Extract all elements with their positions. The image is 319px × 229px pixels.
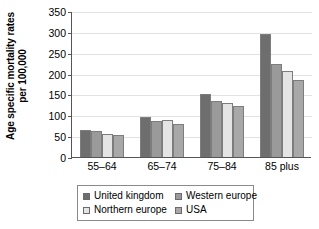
grouped-bar-chart: Age specific mortality rates per 100,000…: [0, 0, 319, 229]
legend-label: USA: [186, 205, 207, 215]
y-tick-mark: [68, 95, 72, 96]
y-tick-label: 0: [60, 153, 66, 164]
bar: [260, 34, 271, 157]
y-tick-mark: [68, 33, 72, 34]
bar: [271, 64, 282, 157]
bar-group: [80, 11, 124, 157]
bar-group: [260, 11, 304, 157]
y-tick-label: 200: [48, 69, 66, 80]
bar: [113, 135, 124, 157]
legend-item: United kingdom: [83, 189, 175, 203]
bar: [233, 106, 244, 157]
bar: [173, 124, 184, 157]
legend-label: Western europe: [186, 191, 257, 201]
legend-label: United kingdom: [94, 191, 163, 201]
legend-item: Western europe: [175, 189, 255, 203]
y-tick-label: 100: [48, 111, 66, 122]
bar: [211, 101, 222, 157]
legend-swatch-icon: [175, 207, 182, 214]
y-tick-mark: [68, 75, 72, 76]
x-axis-category-label: 55–64: [87, 161, 116, 172]
bar: [140, 117, 151, 157]
legend-item: Northern europe: [83, 203, 175, 217]
y-tick-mark: [68, 158, 72, 159]
y-tick-label: 150: [48, 90, 66, 101]
legend-swatch-icon: [83, 207, 90, 214]
y-axis-title-line-2: per 100,000: [17, 49, 29, 102]
bar: [80, 130, 91, 157]
y-tick-label: 50: [54, 132, 66, 143]
bar: [293, 80, 304, 157]
y-axis-title: Age specific mortality rates per 100,000: [0, 1, 37, 151]
y-tick-mark: [68, 116, 72, 117]
y-tick-label: 250: [48, 48, 66, 59]
legend-item: USA: [175, 203, 255, 217]
y-axis-title-line-1: Age specific mortality rates: [5, 12, 17, 140]
bar: [91, 131, 102, 157]
y-tick-mark: [68, 137, 72, 138]
x-axis-category-label: 75–84: [207, 161, 236, 172]
chart-legend: United kingdomWestern europeNorthern eur…: [77, 185, 254, 221]
bar: [200, 94, 211, 157]
bar-group: [200, 11, 244, 157]
legend-swatch-icon: [175, 193, 182, 200]
bar: [102, 134, 113, 157]
legend-swatch-icon: [83, 193, 90, 200]
bar: [222, 103, 233, 157]
legend-label: Northern europe: [94, 205, 167, 215]
y-tick-mark: [68, 54, 72, 55]
bar-group: [140, 11, 184, 157]
x-axis-category-label: 85 plus: [265, 161, 299, 172]
bar: [282, 71, 293, 157]
bar: [162, 120, 173, 157]
plot-area: 05010015020025030035055–6465–7475–8485 p…: [71, 12, 311, 158]
y-tick-mark: [68, 12, 72, 13]
y-tick-label: 300: [48, 28, 66, 39]
y-tick-label: 350: [48, 7, 66, 18]
x-axis-category-label: 65–74: [147, 161, 176, 172]
bar: [151, 121, 162, 157]
